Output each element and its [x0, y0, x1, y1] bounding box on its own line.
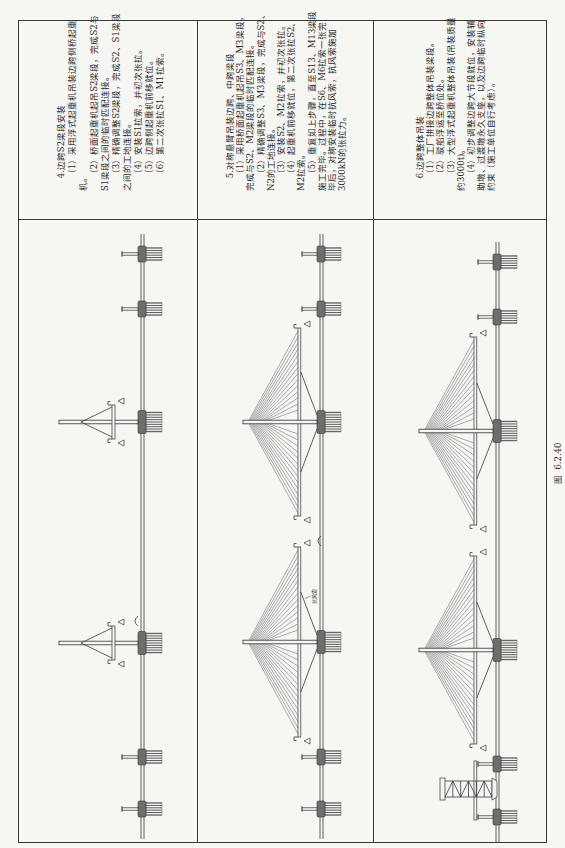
stay-cable [431, 650, 474, 705]
crane-frame [108, 402, 112, 406]
tower-foundation [317, 411, 341, 434]
crane-hook-icon [304, 321, 310, 327]
label-leader [305, 596, 311, 599]
pier-column [122, 756, 138, 758]
wind-cable [477, 438, 493, 479]
pier-table-segment [112, 405, 115, 439]
deck-crane [108, 398, 124, 405]
crane-frame [108, 623, 112, 627]
stay-cable [249, 556, 298, 642]
crane-frame [108, 439, 112, 443]
stay-cable [248, 331, 298, 422]
stay-cable [250, 562, 298, 642]
tower-foundation [138, 411, 162, 434]
tower-foundation [493, 420, 517, 443]
stay-cable [253, 422, 298, 489]
crane-frame [294, 544, 298, 548]
pier-foundation [138, 246, 162, 262]
stay-cable [434, 431, 474, 473]
description-line: 毕后，对称安装临时抗风索，抗风索施加 [327, 21, 337, 191]
stay-cable [255, 422, 298, 477]
crane-frame [470, 744, 474, 748]
stay-cable [426, 571, 474, 650]
pylon [243, 640, 317, 644]
pier-foundation [493, 254, 517, 270]
truss-diagonal [445, 781, 453, 797]
stay-cable [429, 650, 474, 717]
pier-table-segment [112, 626, 115, 660]
pier-column [122, 308, 138, 310]
pylon-leg [81, 628, 112, 643]
stay-cable [439, 632, 474, 650]
stage-description: 6.边跨整体吊装 （1）工厂拼接边跨整体吊装梁段。 （2）驳船浮运至桥位处。 （… [374, 21, 546, 219]
deck-crane [470, 549, 486, 556]
pier-foundation [317, 246, 341, 262]
description-line: 助墩、过渡墩永久支座，以及边跨临时纵向 [476, 21, 486, 191]
crane-frame [294, 516, 298, 520]
stay-cable [258, 599, 298, 642]
description-line: （3）精确调整S2梁段，完成S2、S1梁段 [111, 21, 122, 191]
description-line: （4）安装S1拉索，并初次张拉。 [133, 21, 144, 191]
stay-cable [439, 413, 474, 431]
pylon-leg [81, 407, 112, 422]
stay-cable [425, 650, 474, 735]
deck-crane [294, 516, 310, 523]
barge-hull [492, 778, 497, 800]
stay-cable [426, 352, 474, 431]
stay-cable [425, 346, 474, 431]
crane-frame [294, 325, 298, 329]
stay-cable [431, 376, 474, 431]
crane-jib-head [440, 778, 445, 800]
description-line: （2）精确调整S3、M3梁段，完成与S2、 [256, 21, 266, 191]
pile-group [146, 751, 162, 764]
pylon [419, 648, 493, 652]
stage-row-5: 抗风索 5.对称悬臂吊装边跨、中跨梁段 （1）采用桥面起重机起吊S3、M3梁段，… [198, 21, 374, 842]
pier-column [478, 316, 493, 318]
pile-group [146, 248, 162, 261]
stay-cable [252, 349, 298, 422]
crane-hook-icon [118, 398, 124, 404]
truss-diagonal [461, 781, 469, 797]
pier-column [302, 253, 317, 255]
deck-crane [470, 744, 486, 751]
description-line: （4）起重机前移就位，第二次张拉S2、 [286, 21, 296, 191]
description-line: 之间的工地连接。 [122, 21, 133, 191]
description-line: 机。 [78, 21, 89, 191]
pier-foundation [493, 309, 517, 325]
description-line: （1）工厂拼接边跨整体吊装梁段。 [425, 21, 435, 191]
description-line: （5）重复如上步骤，直至S13、M13梁段 [307, 21, 317, 191]
description-line: （4）初步调整边跨大节段就位，安装辅 [466, 21, 476, 191]
deck-crane [470, 525, 486, 532]
crane-hook-icon [480, 549, 486, 555]
pile-cap [138, 632, 146, 655]
pylon [59, 420, 138, 424]
stay-cable [434, 608, 474, 650]
stay-cable [263, 404, 298, 422]
stage-description: 5.对称悬臂吊装边跨、中跨梁段 （1）采用桥面起重机起吊S3、M3梁段， 完成与… [198, 21, 373, 219]
description-line: 约3000t)。 [456, 21, 466, 191]
pile-cap [138, 749, 146, 765]
wind-cable [477, 657, 493, 698]
pile-group [501, 811, 517, 824]
stay-cable [255, 367, 298, 422]
stay-cable [250, 642, 298, 722]
pier-column [478, 816, 493, 818]
stay-cable [255, 642, 298, 697]
stay-cable [263, 642, 298, 660]
description-line: M2拉索。 [296, 21, 306, 191]
deck-crane [108, 439, 124, 446]
deck-crane [108, 619, 124, 626]
description-line: （2）驳船浮运至桥位处。 [435, 21, 445, 191]
pile-cap [493, 639, 501, 662]
wind-cable [301, 372, 317, 415]
stage-title: 5.对称悬臂吊装边跨、中跨梁段 [225, 21, 235, 191]
pier-column [122, 808, 138, 810]
stay-cable [258, 380, 298, 422]
stage-title: 6.边跨整体吊装 [415, 21, 425, 191]
temporary-support-marker [135, 616, 138, 626]
tower-foundation [317, 631, 341, 654]
temporary-support-marker [318, 536, 321, 546]
stay-cable [424, 559, 474, 650]
pile-group [325, 303, 341, 316]
crane-hook-icon [304, 517, 310, 523]
